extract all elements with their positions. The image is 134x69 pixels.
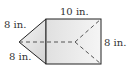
- label-top-length: 10 in.: [60, 6, 89, 17]
- prism-diagram: 10 in. 8 in. 8 in. 8 in.: [0, 0, 134, 69]
- label-right-height: 8 in.: [104, 37, 126, 48]
- label-left-top-edge: 8 in.: [4, 19, 26, 30]
- label-left-bottom-edge: 8 in.: [9, 51, 31, 62]
